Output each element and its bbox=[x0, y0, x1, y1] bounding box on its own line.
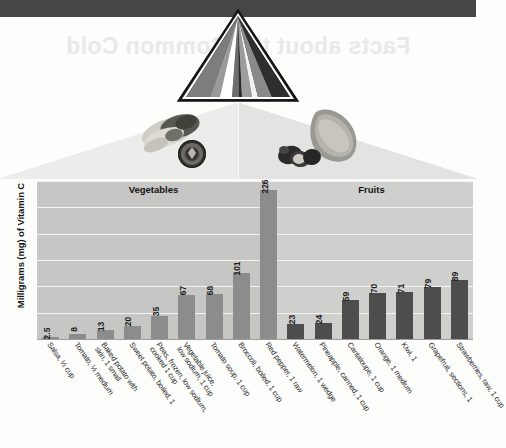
x-axis-label: Salsa, ½ cup bbox=[45, 341, 76, 380]
fruits-photo-svg bbox=[276, 107, 374, 177]
bar-vegetable[interactable] bbox=[178, 295, 195, 339]
bar-slot[interactable]: 226 bbox=[260, 181, 277, 339]
bar-vegetable[interactable] bbox=[206, 294, 223, 339]
bar-fruit[interactable] bbox=[287, 324, 304, 339]
bar-value-label: 8 bbox=[69, 327, 78, 332]
bar-value-label: 68 bbox=[206, 286, 215, 295]
bar-slot[interactable]: 89 bbox=[451, 181, 468, 339]
food-pyramid-icon bbox=[176, 8, 300, 103]
bar-value-label: 2.5 bbox=[42, 327, 51, 339]
bar-value-label: 71 bbox=[396, 284, 405, 293]
bar-slot[interactable]: 35 bbox=[151, 181, 168, 339]
bar-vegetable[interactable] bbox=[260, 190, 277, 339]
fruits-photo bbox=[276, 107, 374, 177]
bar-slot[interactable]: 79 bbox=[424, 181, 441, 339]
bars-container: 2.58132035676810122623245970717989 bbox=[37, 181, 473, 339]
x-axis-label: Kiwi, 1 bbox=[400, 341, 419, 363]
bar-slot[interactable]: 24 bbox=[315, 181, 332, 339]
bar-slot[interactable]: 13 bbox=[97, 181, 114, 339]
vegetables-photo-svg bbox=[134, 108, 226, 174]
bar-fruit[interactable] bbox=[342, 300, 359, 339]
bar-slot[interactable]: 20 bbox=[124, 181, 141, 339]
bar-slot[interactable]: 59 bbox=[342, 181, 359, 339]
bar-slot[interactable]: 70 bbox=[369, 181, 386, 339]
bar-slot[interactable]: 68 bbox=[206, 181, 223, 339]
bar-vegetable[interactable] bbox=[97, 330, 114, 339]
vitamin-c-bar-chart: Milligrams (mg) of Vitamin C Vegetables … bbox=[0, 178, 476, 448]
bar-vegetable[interactable] bbox=[124, 326, 141, 339]
x-axis-labels: Salsa, ½ cupTomato, ½ mediumBaked potato… bbox=[37, 341, 473, 446]
bar-value-label: 67 bbox=[178, 286, 187, 295]
bar-slot[interactable]: 2.5 bbox=[42, 181, 59, 339]
bar-value-label: 89 bbox=[451, 272, 460, 281]
beam-center-split bbox=[238, 103, 239, 179]
bar-value-label: 13 bbox=[97, 322, 106, 331]
bar-value-label: 23 bbox=[287, 315, 296, 324]
plot-area: Vegetables Fruits 2.58132035676810122623… bbox=[37, 181, 473, 339]
bar-value-label: 101 bbox=[233, 261, 242, 275]
bar-value-label: 20 bbox=[124, 317, 133, 326]
bar-slot[interactable]: 8 bbox=[69, 181, 86, 339]
bar-vegetable[interactable] bbox=[233, 273, 250, 339]
x-axis-baseline bbox=[37, 339, 473, 340]
vegetables-photo bbox=[134, 108, 226, 174]
y-axis-title: Milligrams (mg) of Vitamin C bbox=[15, 166, 26, 326]
bar-fruit[interactable] bbox=[396, 292, 413, 339]
bar-vegetable[interactable] bbox=[151, 316, 168, 339]
bar-value-label: 59 bbox=[342, 291, 351, 300]
bar-fruit[interactable] bbox=[451, 280, 468, 339]
bar-fruit[interactable] bbox=[424, 287, 441, 339]
bar-value-label: 226 bbox=[260, 179, 269, 193]
bar-value-label: 35 bbox=[151, 307, 160, 316]
bar-slot[interactable]: 23 bbox=[287, 181, 304, 339]
light-beam-ground bbox=[0, 103, 476, 179]
bar-fruit[interactable] bbox=[315, 323, 332, 339]
bar-fruit[interactable] bbox=[369, 293, 386, 339]
bar-value-label: 70 bbox=[369, 284, 378, 293]
x-axis-label: Strawberries, raw, 1 cup bbox=[454, 341, 505, 409]
bar-slot[interactable]: 71 bbox=[396, 181, 413, 339]
bar-slot[interactable]: 101 bbox=[233, 181, 250, 339]
bar-slot[interactable]: 67 bbox=[178, 181, 195, 339]
pyramid-svg bbox=[176, 8, 300, 103]
bar-value-label: 24 bbox=[315, 314, 324, 323]
x-axis-label: Pineapple, canned, 1 cup bbox=[318, 341, 372, 413]
bar-value-label: 79 bbox=[424, 278, 433, 287]
